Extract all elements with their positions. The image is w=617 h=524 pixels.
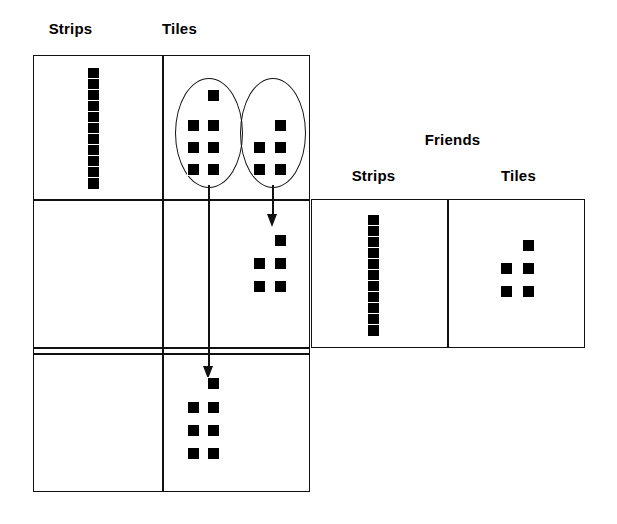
- left-table-column-divider: [162, 55, 164, 492]
- tile-unit: [254, 281, 265, 292]
- tile-unit: [254, 164, 265, 175]
- arrow-group-right-to-middle-row-head: [267, 214, 277, 227]
- strip-unit: [368, 325, 379, 336]
- tile-unit: [275, 120, 286, 131]
- strip-unit: [88, 123, 99, 134]
- strip-unit: [368, 215, 379, 226]
- tile-unit: [208, 448, 219, 459]
- tile-unit: [275, 235, 286, 246]
- oval-group-right: [240, 78, 306, 188]
- left-header-tiles: Tiles: [142, 20, 217, 37]
- strip-unit: [368, 248, 379, 259]
- tile-unit: [208, 142, 219, 153]
- left-table-row-divider-2a: [33, 347, 310, 349]
- strip-unit: [88, 112, 99, 123]
- tile-unit: [275, 164, 286, 175]
- strip-unit: [88, 145, 99, 156]
- strip-unit: [368, 259, 379, 270]
- tile-unit: [254, 258, 265, 269]
- left-header-strips: Strips: [33, 20, 108, 37]
- tile-unit: [188, 402, 199, 413]
- strip-unit: [368, 314, 379, 325]
- tile-unit: [208, 402, 219, 413]
- tile-unit: [275, 142, 286, 153]
- left-table-row-divider-2b: [33, 353, 310, 355]
- strip-unit: [368, 281, 379, 292]
- left-table-row-divider-1: [33, 199, 310, 201]
- tile-unit: [254, 142, 265, 153]
- strip-unit: [88, 101, 99, 112]
- strip-unit: [368, 226, 379, 237]
- strip-unit: [368, 292, 379, 303]
- tile-unit: [501, 286, 512, 297]
- strip-unit: [88, 79, 99, 90]
- tile-unit: [188, 448, 199, 459]
- strip-unit: [368, 237, 379, 248]
- tile-unit: [208, 425, 219, 436]
- friends-table-column-divider: [447, 199, 449, 348]
- diagram-canvas: Strips Tiles: [0, 0, 617, 524]
- friends-header-tiles: Tiles: [481, 167, 556, 184]
- strip-unit: [88, 178, 99, 189]
- tile-unit: [188, 142, 199, 153]
- friends-group-label: Friends: [405, 131, 500, 148]
- strip-unit: [88, 134, 99, 145]
- tile-unit: [523, 286, 534, 297]
- friends-header-strips: Strips: [336, 167, 411, 184]
- tile-unit: [208, 378, 219, 389]
- strip-unit: [88, 156, 99, 167]
- tile-unit: [188, 425, 199, 436]
- tile-unit: [208, 90, 219, 101]
- strip-unit: [88, 68, 99, 79]
- tile-unit: [188, 120, 199, 131]
- strip-unit: [88, 90, 99, 101]
- tile-unit: [188, 164, 199, 175]
- arrow-group-left-to-bottom-row-shaft: [208, 185, 210, 370]
- tile-unit: [501, 263, 512, 274]
- tile-unit: [208, 120, 219, 131]
- strip-unit: [368, 270, 379, 281]
- strip-unit: [88, 167, 99, 178]
- tile-unit: [523, 263, 534, 274]
- tile-unit: [208, 164, 219, 175]
- tile-unit: [523, 240, 534, 251]
- tile-unit: [275, 258, 286, 269]
- tile-unit: [275, 281, 286, 292]
- strip-unit: [368, 303, 379, 314]
